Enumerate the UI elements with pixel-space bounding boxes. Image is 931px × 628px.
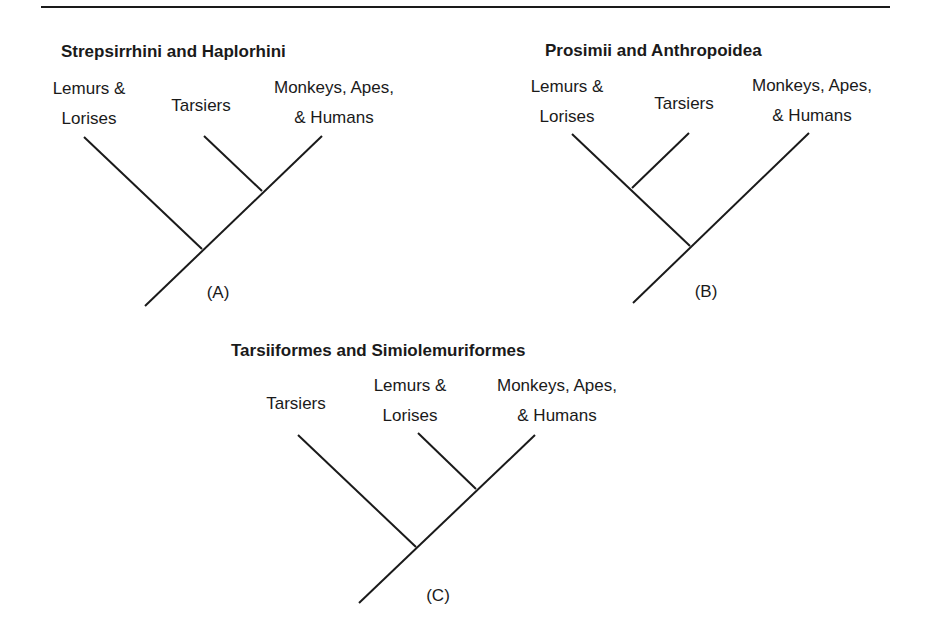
diagram-b-taxon-monkeys: Monkeys, Apes, & Humans [752, 71, 872, 131]
diagram-a-title: Strepsirrhini and Haplorhini [61, 42, 286, 62]
diagram-b-title: Prosimii and Anthropoidea [545, 41, 762, 61]
diagram-c-taxon-tarsiers: Tarsiers [266, 389, 326, 419]
branch-c-tarsiers [298, 435, 416, 547]
taxon-label-line1: Monkeys, Apes, [497, 371, 617, 401]
diagram-a-taxon-tarsiers: Tarsiers [171, 91, 231, 121]
taxon-label-line2: Lorises [374, 401, 447, 431]
diagram-a-taxon-lemurs: Lemurs & Lorises [53, 74, 126, 134]
taxon-label-line2: & Humans [752, 101, 872, 131]
branch-b-tarsiers [632, 133, 689, 188]
diagram-c-tag: (C) [426, 586, 450, 606]
diagram-c-taxon-lemurs: Lemurs & Lorises [374, 371, 447, 431]
branch-b-lemurs [572, 134, 690, 246]
taxon-label-line2: Lorises [531, 102, 604, 132]
branch-c-lemurs [418, 433, 476, 489]
diagram-a-tag: (A) [207, 283, 230, 303]
taxon-label-line1: Lemurs & [531, 72, 604, 102]
taxon-label-line1: Monkeys, Apes, [274, 73, 394, 103]
taxon-label-line1: Monkeys, Apes, [752, 71, 872, 101]
branch-a-tarsiers [204, 136, 262, 191]
taxon-label-line1: Lemurs & [53, 74, 126, 104]
taxon-label-line1: Lemurs & [374, 371, 447, 401]
taxon-label-line2: & Humans [497, 401, 617, 431]
taxon-label-line2: Lorises [53, 104, 126, 134]
branch-a-lemurs [84, 137, 202, 249]
taxon-label-line2: & Humans [274, 103, 394, 133]
diagram-a-taxon-monkeys: Monkeys, Apes, & Humans [274, 73, 394, 133]
diagram-c-title: Tarsiiformes and Simiolemuriformes [231, 341, 525, 361]
diagram-b-taxon-tarsiers: Tarsiers [654, 89, 714, 119]
diagram-c-taxon-monkeys: Monkeys, Apes, & Humans [497, 371, 617, 431]
diagram-b-tag: (B) [695, 282, 718, 302]
diagram-b-taxon-lemurs: Lemurs & Lorises [531, 72, 604, 132]
